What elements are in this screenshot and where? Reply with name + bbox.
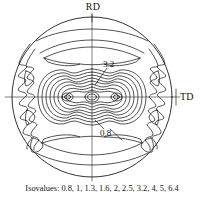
- crescent-band-top-lobe-left: [44, 58, 80, 66]
- leader-line-0-8-b: [110, 129, 122, 140]
- crescent-band-bottom-lobe-left: [42, 135, 80, 143]
- axis-label-rd: RD: [80, 1, 106, 12]
- rim-contour-right-outer: [152, 44, 166, 149]
- contour-annotation-low: 0.8: [100, 128, 111, 138]
- axis-label-td: TD: [180, 91, 194, 102]
- rim-blob-left-1: [25, 71, 35, 86]
- rim-blob-right-1: [150, 71, 160, 86]
- rim-contour-left-outer: [18, 44, 32, 149]
- contour-annotation-high: 3.2: [103, 59, 114, 69]
- pole-figure: RD TD 3.2 0.8 Isovalues: 0.8, 1, 1.3, 1.…: [0, 0, 204, 202]
- isovalues-caption: Isovalues: 0.8, 1, 1.3, 1.6, 2, 2.5, 3.2…: [0, 184, 204, 193]
- pole-figure-plot: [0, 0, 204, 202]
